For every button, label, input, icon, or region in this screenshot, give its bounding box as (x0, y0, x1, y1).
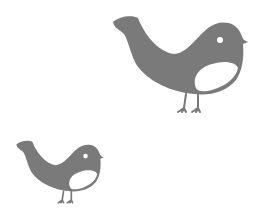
bird-body (16, 141, 103, 192)
large-bird-illustration (108, 12, 250, 114)
bird-body (113, 16, 248, 94)
bird-legs (58, 191, 72, 203)
bird-icon (16, 141, 103, 203)
bird-eye (83, 154, 88, 159)
bird-legs (178, 94, 200, 112)
small-bird-illustration (12, 138, 106, 204)
bird-eye (217, 37, 223, 43)
bird-icon (113, 16, 248, 112)
